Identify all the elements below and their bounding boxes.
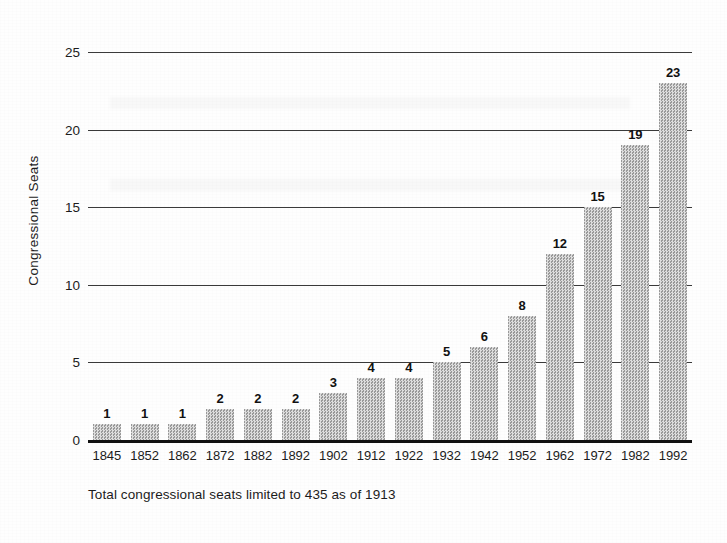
x-axis-tick-label: 1922 bbox=[390, 448, 428, 463]
plot-area: 11122234456812151923 bbox=[88, 52, 692, 440]
bar bbox=[433, 362, 461, 440]
bar-group: 8 bbox=[508, 52, 536, 440]
bar bbox=[319, 393, 347, 440]
y-axis-tick-label: 15 bbox=[44, 200, 80, 215]
bar-group: 1 bbox=[168, 52, 196, 440]
x-axis-tick-label: 1882 bbox=[239, 448, 277, 463]
chart-caption: Total congressional seats limited to 435… bbox=[88, 487, 396, 502]
bar-value-label: 3 bbox=[319, 375, 347, 390]
bar-value-label: 1 bbox=[93, 406, 121, 421]
bar bbox=[282, 409, 310, 440]
x-axis-tick-label: 1992 bbox=[654, 448, 692, 463]
bar-group: 2 bbox=[206, 52, 234, 440]
bar-value-label: 2 bbox=[244, 391, 272, 406]
x-axis-tick-label: 1932 bbox=[428, 448, 466, 463]
x-axis-tick-label: 1962 bbox=[541, 448, 579, 463]
x-axis-tick-label: 1952 bbox=[503, 448, 541, 463]
bar-series: 11122234456812151923 bbox=[88, 52, 692, 440]
bar-group: 4 bbox=[395, 52, 423, 440]
bar-value-label: 4 bbox=[357, 360, 385, 375]
chart-figure: Congressional Seats 0510152025 111222344… bbox=[0, 0, 727, 543]
y-axis-tick-label: 20 bbox=[44, 122, 80, 137]
y-axis-title-text: Congressional Seats bbox=[26, 155, 41, 285]
bar-group: 15 bbox=[584, 52, 612, 440]
x-axis-tick-label: 1942 bbox=[466, 448, 504, 463]
bar-value-label: 1 bbox=[168, 406, 196, 421]
x-axis-tick-label: 1972 bbox=[579, 448, 617, 463]
bar bbox=[93, 424, 121, 440]
x-axis-tick-label: 1912 bbox=[352, 448, 390, 463]
bar-value-label: 4 bbox=[395, 360, 423, 375]
y-axis-tick-label: 0 bbox=[44, 433, 80, 448]
y-axis-tick-label: 5 bbox=[44, 355, 80, 370]
bar-group: 19 bbox=[621, 52, 649, 440]
bar bbox=[395, 378, 423, 440]
bar-value-label: 6 bbox=[470, 329, 498, 344]
bar bbox=[584, 207, 612, 440]
bar bbox=[470, 347, 498, 440]
bar bbox=[508, 316, 536, 440]
bar-group: 1 bbox=[93, 52, 121, 440]
bar bbox=[206, 409, 234, 440]
bar-group: 2 bbox=[282, 52, 310, 440]
bar-value-label: 19 bbox=[621, 127, 649, 142]
bar-group: 1 bbox=[131, 52, 159, 440]
x-axis-tick-label: 1892 bbox=[277, 448, 315, 463]
bar-group: 23 bbox=[659, 52, 687, 440]
bar-group: 3 bbox=[319, 52, 347, 440]
y-axis-tick-label: 25 bbox=[44, 45, 80, 60]
x-axis-tick-label: 1902 bbox=[315, 448, 353, 463]
bar-value-label: 2 bbox=[282, 391, 310, 406]
bar-value-label: 8 bbox=[508, 298, 536, 313]
x-axis-tick-label: 1852 bbox=[126, 448, 164, 463]
bar-value-label: 1 bbox=[131, 406, 159, 421]
bar-value-label: 12 bbox=[546, 236, 574, 251]
bar bbox=[659, 83, 687, 440]
bar-group: 12 bbox=[546, 52, 574, 440]
x-axis-tick-labels: 1845185218621872188218921902191219221932… bbox=[88, 448, 692, 468]
bar bbox=[357, 378, 385, 440]
x-axis-tick-label: 1862 bbox=[164, 448, 202, 463]
x-axis-tick-label: 1845 bbox=[88, 448, 126, 463]
y-axis-tick-labels: 0510152025 bbox=[40, 52, 80, 440]
bar-group: 2 bbox=[244, 52, 272, 440]
bar bbox=[621, 145, 649, 440]
x-axis-line bbox=[88, 440, 692, 443]
bar-group: 4 bbox=[357, 52, 385, 440]
bar bbox=[244, 409, 272, 440]
bar-value-label: 5 bbox=[433, 344, 461, 359]
x-axis-tick-label: 1982 bbox=[617, 448, 655, 463]
bar bbox=[546, 254, 574, 440]
bar-group: 5 bbox=[433, 52, 461, 440]
bar bbox=[131, 424, 159, 440]
bar-value-label: 23 bbox=[659, 65, 687, 80]
bar-group: 6 bbox=[470, 52, 498, 440]
bar-value-label: 2 bbox=[206, 391, 234, 406]
bar bbox=[168, 424, 196, 440]
y-axis-tick-label: 10 bbox=[44, 277, 80, 292]
bar-value-label: 15 bbox=[584, 189, 612, 204]
x-axis-tick-label: 1872 bbox=[201, 448, 239, 463]
